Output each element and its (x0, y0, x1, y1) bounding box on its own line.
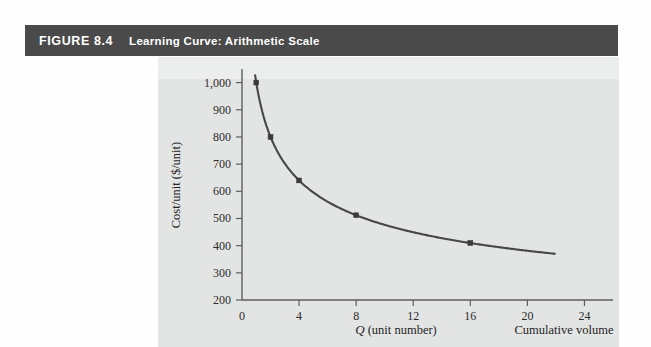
figure-header-bar: FIGURE 8.4 Learning Curve: Arithmetic Sc… (25, 25, 618, 56)
y-tick-label: 400 (213, 239, 231, 253)
x-axis-title: Q (unit number) (355, 322, 437, 337)
x-axis-ticks: 04812162024 (239, 300, 590, 323)
data-series-group (254, 75, 555, 254)
x-tick-label: 16 (464, 309, 476, 323)
x-axis-secondary-title: Cumulative volume (515, 323, 614, 337)
x-tick-label: 8 (353, 309, 359, 323)
x-axis: 04812162024 (239, 300, 613, 323)
data-point-markers (254, 80, 473, 245)
x-tick-label: 12 (407, 309, 419, 323)
figure-number-label: FIGURE 8.4 (39, 34, 113, 48)
y-axis: 2003004005006007008009001,000 (204, 69, 242, 307)
y-axis-title: Cost/unit ($/unit) (169, 142, 183, 228)
x-tick-label: 0 (239, 309, 245, 323)
data-point-marker (268, 135, 273, 140)
data-point-marker (354, 213, 359, 218)
learning-curve-line (255, 75, 555, 254)
y-tick-label: 200 (213, 293, 231, 307)
y-tick-label: 800 (213, 130, 231, 144)
y-tick-label: 1,000 (204, 76, 231, 90)
y-tick-label: 300 (213, 266, 231, 280)
data-point-marker (297, 178, 302, 183)
y-tick-label: 700 (213, 157, 231, 171)
y-axis-ticks: 2003004005006007008009001,000 (204, 76, 242, 307)
x-tick-label: 4 (296, 309, 302, 323)
figure-title-label: Learning Curve: Arithmetic Scale (129, 35, 320, 47)
data-point-marker (254, 80, 259, 85)
learning-curve-chart: 2003004005006007008009001,000 0481216202… (158, 57, 619, 347)
y-tick-label: 900 (213, 103, 231, 117)
x-tick-label: 24 (578, 309, 590, 323)
chart-svg: 2003004005006007008009001,000 0481216202… (158, 57, 619, 347)
y-tick-label: 500 (213, 211, 231, 225)
data-point-marker (468, 241, 473, 246)
figure-page: FIGURE 8.4 Learning Curve: Arithmetic Sc… (0, 0, 651, 347)
y-tick-label: 600 (213, 184, 231, 198)
x-tick-label: 20 (521, 309, 533, 323)
